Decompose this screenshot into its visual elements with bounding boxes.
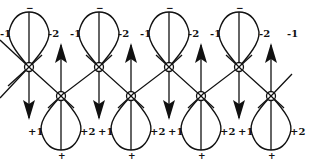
left-label: +1 xyxy=(168,126,183,137)
right-label: +2 xyxy=(290,126,305,137)
right-label: +2 xyxy=(80,126,95,137)
left-label: -1 xyxy=(210,28,221,39)
lobe-sign: − xyxy=(96,3,104,13)
top-lobes xyxy=(9,12,259,118)
atom-node-icon xyxy=(235,63,244,72)
atom-node-icon xyxy=(197,92,206,101)
left-label: -1 xyxy=(0,28,11,39)
right-label: -2 xyxy=(259,28,270,39)
lobe-sign: + xyxy=(128,151,136,159)
left-label: -1 xyxy=(140,28,151,39)
atom-node-icon xyxy=(165,63,174,72)
atom-node-icon xyxy=(267,92,276,101)
atom-node-icon xyxy=(127,92,136,101)
extra-label: -1 xyxy=(287,28,298,39)
left-label: +1 xyxy=(98,126,113,137)
left-label: -1 xyxy=(70,28,81,39)
lobe-sign: − xyxy=(166,3,174,13)
zigzag-bonds xyxy=(0,40,292,108)
bottom-lobes xyxy=(41,45,291,150)
atom-node-icon xyxy=(95,63,104,72)
right-label: -2 xyxy=(188,28,199,39)
spin-chain-diagram: − -1 -2 − -1 -2 − -1 -2 − -1 -2 -1 + +1 … xyxy=(0,0,310,159)
right-label: +2 xyxy=(220,126,235,137)
left-label: +1 xyxy=(238,126,253,137)
right-label: -2 xyxy=(118,28,129,39)
lobe-sign: + xyxy=(268,151,276,159)
lobe-sign: + xyxy=(58,151,66,159)
lobe-sign: − xyxy=(26,3,34,13)
bottom-labels: + +1 +2 + +1 +2 + +1 +2 + +1 +2 xyxy=(28,126,305,159)
atom-node-icon xyxy=(25,63,34,72)
atom-node-icon xyxy=(57,92,66,101)
right-label: +2 xyxy=(150,126,165,137)
right-label: -2 xyxy=(48,28,59,39)
lobe-sign: − xyxy=(236,3,244,13)
left-label: +1 xyxy=(28,126,43,137)
lobe-sign: + xyxy=(198,151,206,159)
